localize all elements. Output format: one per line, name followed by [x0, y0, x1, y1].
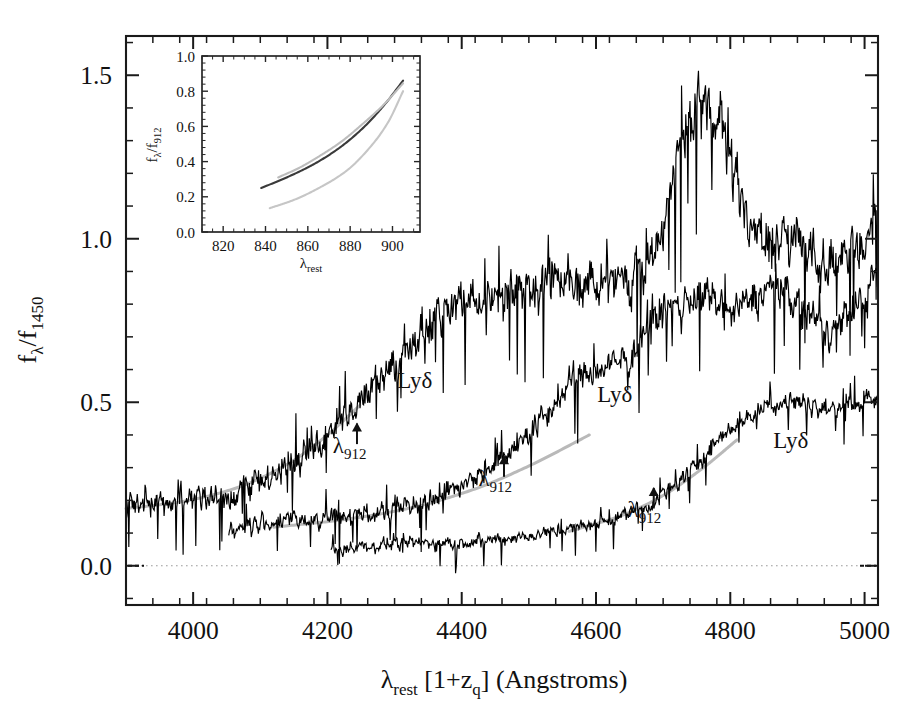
lyd-2: Lyδ — [597, 382, 632, 407]
inset-x-tick-label: 900 — [381, 238, 404, 254]
plot-canvas: 4000420044004600480050000.00.51.01.5 Lyδ… — [0, 0, 909, 718]
inset-y-tick-label: 1.0 — [176, 49, 195, 65]
figure-background — [0, 0, 909, 718]
inset-x-tick-label: 820 — [212, 238, 235, 254]
x-tick-label: 5000 — [839, 616, 890, 645]
x-tick-label: 4000 — [168, 616, 219, 645]
x-axis-title: λrest [1+zq] (Angstroms) — [381, 665, 628, 699]
inset-white-panel — [201, 55, 421, 233]
lyd-1: Lyδ — [397, 368, 432, 393]
x-tick-label: 4600 — [571, 616, 622, 645]
y-tick-label: 1.0 — [80, 225, 112, 254]
x-tick-label: 4800 — [705, 616, 756, 645]
x-tick-label: 4400 — [436, 616, 487, 645]
inset-y-tick-label: 0.6 — [176, 119, 195, 135]
inset-x-tick-label: 880 — [339, 238, 362, 254]
y-tick-label: 0.5 — [80, 388, 112, 417]
inset-x-tick-label: 840 — [254, 238, 277, 254]
spectra-figure: 4000420044004600480050000.00.51.01.5 Lyδ… — [0, 0, 909, 718]
y-tick-label: 0.0 — [80, 552, 112, 581]
inset-background — [201, 55, 421, 233]
lyd-3: Lyδ — [773, 428, 808, 453]
inset-y-tick-label: 0.4 — [176, 154, 195, 170]
inset-y-tick-label: 0.0 — [176, 225, 195, 241]
x-tick-label: 4200 — [302, 616, 353, 645]
inset-y-tick-label: 0.8 — [176, 84, 195, 100]
y-tick-label: 1.5 — [80, 61, 112, 90]
inset-x-tick-label: 860 — [297, 238, 320, 254]
inset-y-tick-label: 0.2 — [176, 189, 195, 205]
